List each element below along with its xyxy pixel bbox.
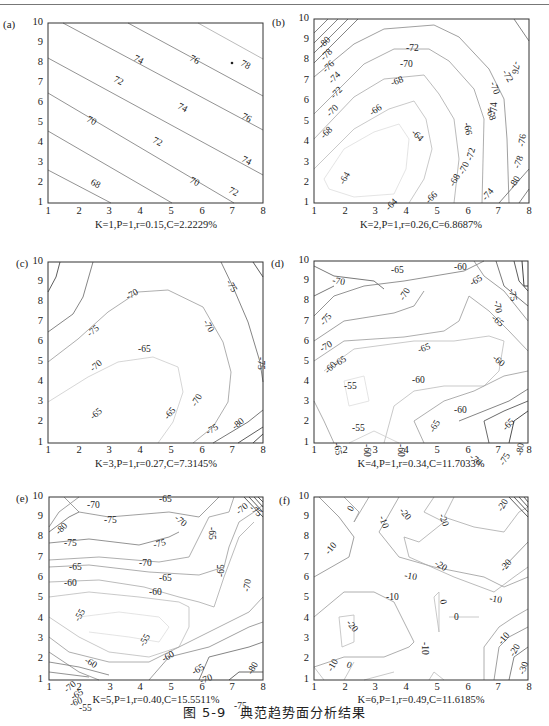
svg-text:-75: -75	[256, 357, 266, 370]
y-tick: 10	[293, 12, 309, 23]
y-tick: 6	[293, 571, 309, 582]
svg-text:-65: -65	[391, 265, 404, 275]
y-tick: 2	[293, 652, 309, 663]
y-tick: 6	[27, 335, 43, 346]
svg-text:-72: -72	[406, 43, 419, 53]
panel-f: (f) 0 -10 -20 -20 -20 -10 -2	[314, 497, 528, 680]
panel-e: (e) -70 -65 -75 -80 -70 -70	[49, 497, 263, 680]
svg-text:-64: -64	[337, 170, 352, 186]
x-tick: 5	[164, 205, 178, 216]
svg-text:-70: -70	[318, 339, 334, 354]
y-tick: 7	[293, 74, 309, 85]
svg-text:74: 74	[176, 101, 189, 114]
svg-text:-20: -20	[495, 497, 510, 513]
svg-text:-80: -80	[507, 174, 522, 190]
x-tick: 1	[307, 681, 321, 692]
top-rule	[0, 4, 549, 5]
x-tick: 5	[164, 444, 178, 455]
svg-text:-70: -70	[88, 358, 104, 374]
svg-text:-75: -75	[85, 323, 101, 339]
svg-text:0: 0	[345, 504, 356, 513]
panel-label: (b)	[272, 16, 285, 28]
x-tick: 6	[195, 205, 209, 216]
x-tick: 8	[522, 205, 536, 216]
svg-text:-70: -70	[241, 578, 253, 592]
y-tick: 2	[293, 176, 309, 187]
svg-text:-10: -10	[377, 514, 391, 530]
x-tick: 2	[338, 444, 352, 455]
svg-text:0: 0	[454, 612, 459, 622]
panel-label: (a)	[3, 18, 15, 30]
y-tick: 6	[293, 335, 309, 346]
x-tick: 5	[430, 681, 444, 692]
x-tick: 1	[307, 444, 321, 455]
y-tick: 3	[27, 156, 43, 167]
svg-text:-20: -20	[507, 642, 522, 658]
svg-text:68: 68	[89, 177, 102, 190]
y-tick: 7	[27, 551, 43, 562]
svg-text:-80: -80	[245, 660, 260, 676]
svg-text:-60: -60	[454, 405, 467, 415]
subcaption: K=2,P=1,r=0.26,C=6.8687%	[291, 219, 549, 230]
y-tick: 10	[27, 16, 43, 27]
y-tick: 9	[293, 510, 309, 521]
svg-text:-75: -75	[318, 311, 334, 327]
svg-text:-55: -55	[352, 423, 365, 433]
y-tick: 3	[293, 632, 309, 643]
svg-text:-66: -66	[367, 102, 383, 118]
y-tick: 2	[293, 415, 309, 426]
svg-text:-65: -65	[427, 418, 442, 434]
y-tick: 5	[293, 115, 309, 126]
x-tick: 3	[102, 205, 116, 216]
subcaption: K=3,P=1,r=0.27,C=7.3145%	[26, 458, 286, 469]
y-tick: 2	[27, 415, 43, 426]
svg-text:-80: -80	[230, 416, 246, 432]
y-tick: 2	[27, 652, 43, 663]
svg-text:72: 72	[151, 135, 164, 148]
x-tick: 8	[256, 205, 270, 216]
y-tick: 8	[27, 530, 43, 541]
svg-text:-65: -65	[69, 562, 82, 572]
x-tick: 3	[102, 444, 116, 455]
y-tick: 4	[293, 612, 309, 623]
x-tick: 5	[430, 205, 444, 216]
svg-text:76: 76	[240, 111, 253, 124]
svg-text:74: 74	[132, 53, 145, 66]
y-tick: 4	[293, 375, 309, 386]
y-tick: 8	[293, 53, 309, 64]
svg-text:-70: -70	[488, 80, 502, 96]
x-tick: 5	[430, 444, 444, 455]
svg-text:-64: -64	[410, 127, 426, 143]
svg-text:72: 72	[112, 74, 125, 87]
svg-text:-60: -60	[83, 655, 99, 670]
x-tick: 3	[103, 681, 117, 692]
x-tick: 6	[195, 444, 209, 455]
svg-text:-60: -60	[149, 587, 162, 597]
x-tick: 2	[72, 205, 86, 216]
x-tick: 7	[491, 205, 505, 216]
x-tick: 7	[225, 205, 239, 216]
svg-text:-60: -60	[491, 353, 507, 369]
y-tick: 10	[27, 490, 43, 501]
y-tick: 7	[27, 315, 43, 326]
x-tick: 8	[256, 444, 270, 455]
y-tick: 4	[293, 135, 309, 146]
x-tick: 6	[461, 205, 475, 216]
svg-text:-10: -10	[323, 540, 339, 556]
svg-text:-60: -60	[64, 578, 77, 588]
svg-text:-10: -10	[496, 630, 512, 646]
svg-text:-55: -55	[72, 607, 87, 623]
svg-text:-65: -65	[216, 564, 226, 577]
y-tick: 9	[27, 510, 43, 521]
y-tick: 3	[293, 395, 309, 406]
y-tick: 2	[27, 176, 43, 187]
contour-plot: -75 -75 -70 -70 -70 -65 -65 -65 -70 -75 …	[48, 262, 263, 443]
y-tick: 8	[27, 295, 43, 306]
x-tick: 2	[72, 444, 86, 455]
svg-text:-65: -65	[159, 573, 172, 583]
y-tick: 4	[27, 375, 43, 386]
x-tick: 1	[42, 681, 56, 692]
y-tick: 9	[293, 33, 309, 44]
svg-text:-70: -70	[189, 392, 204, 408]
svg-text:-68: -68	[318, 124, 334, 140]
